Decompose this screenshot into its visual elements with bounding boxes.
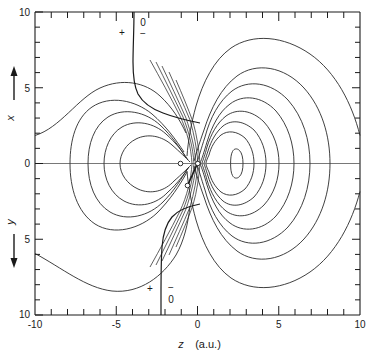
top-node-zero-label: 0 [140,17,146,28]
upper-axis-variable-label: x [4,115,16,122]
contour-plot-figure: + 0 − + − 0 10 5 0 5 10 -10 -5 0 5 10 z … [0,0,370,354]
top-node-minus-label: − [140,28,146,39]
x-axis-variable-label: z [177,338,184,350]
x-axis-tick-labels: -10 -5 0 5 10 [28,319,366,330]
bottom-node-plus-label: + [147,283,153,294]
x-tick-label-minus-five: -5 [112,319,121,330]
atom-marker-1 [178,161,183,166]
arrow-down-icon [11,258,18,268]
x-tick-label-minus-ten: -10 [28,319,43,330]
v-tick-label-lower-five: 5 [24,234,30,245]
x-axis-title: z (a.u.) [177,338,221,350]
bottom-node-minus-label: − [168,282,174,293]
x-axis-units-label: (a.u.) [195,338,221,350]
v-tick-label-top: 10 [19,7,31,18]
arrow-up-icon [11,66,18,76]
vertical-axis-tick-labels: 10 5 0 5 10 [19,7,31,320]
lower-axis-label-group: y [4,218,18,268]
x-tick-label-ten: 10 [354,319,366,330]
x-tick-label-zero: 0 [195,319,201,330]
v-tick-label-upper-five: 5 [24,83,30,94]
lower-axis-variable-label: y [4,218,16,226]
upper-axis-label-group: x [4,66,18,122]
v-tick-label-zero: 0 [24,158,30,169]
bottom-node-zero-label: 0 [168,294,174,305]
top-node-plus-label: + [119,27,125,38]
atom-marker-3 [185,183,190,188]
x-tick-label-five: 5 [276,319,282,330]
atom-marker-2 [196,161,201,166]
